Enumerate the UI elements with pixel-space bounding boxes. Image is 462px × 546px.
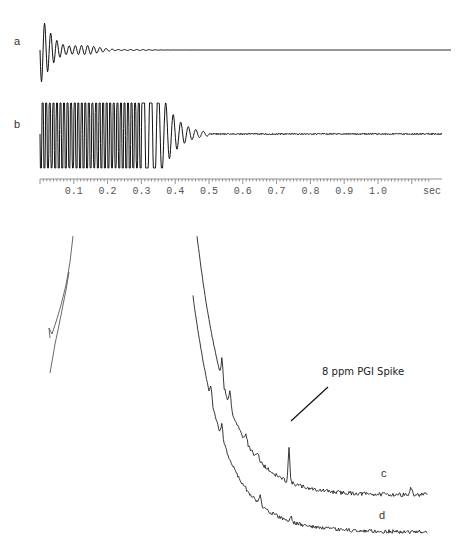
tick-label: 1.0 [369, 186, 387, 197]
trace-d [193, 295, 427, 533]
figure-canvas [0, 0, 462, 546]
tick-label: 0.3 [132, 186, 150, 197]
tick-label: 0.5 [200, 186, 218, 197]
trace-a [40, 23, 451, 82]
tick-label: 0.6 [234, 186, 252, 197]
trace-label-c: c [381, 467, 387, 479]
tick-label: 0.8 [301, 186, 319, 197]
tick-label: 0.1 [65, 186, 83, 197]
tick-label: 0.4 [166, 186, 184, 197]
axis-unit-label: sec [423, 186, 441, 197]
time-axis [40, 179, 442, 184]
tick-label: 0.2 [99, 186, 117, 197]
annotation-leader-line [291, 387, 328, 421]
trace-b [40, 103, 442, 168]
trace-label-a: a [14, 35, 20, 47]
tick-label: 0.9 [335, 186, 353, 197]
trace-label-b: b [14, 118, 20, 130]
spectrum-fragment-left [49, 236, 73, 373]
trace-label-d: d [379, 509, 385, 521]
spike-annotation: 8 ppm PGI Spike [322, 366, 404, 377]
tick-label: 0.7 [268, 186, 286, 197]
